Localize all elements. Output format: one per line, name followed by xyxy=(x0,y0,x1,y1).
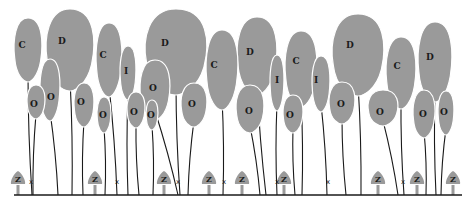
tree-crown-o: O xyxy=(413,90,435,138)
tree-crown-i: I xyxy=(270,55,284,111)
crown-class-label: I xyxy=(124,66,128,76)
crown-class-label: D xyxy=(161,38,169,48)
tree-stem xyxy=(33,114,36,195)
crown-class-label: O xyxy=(147,110,155,120)
crown-shape xyxy=(96,23,122,97)
seedling-z: Z xyxy=(11,171,25,195)
seedling-label: Z xyxy=(92,174,98,184)
tree-stem xyxy=(188,120,194,195)
seedling-label: Z xyxy=(206,174,212,184)
seedling-trunk xyxy=(94,185,97,195)
tree-crown-o: O xyxy=(127,92,145,128)
tree-crown-o: O xyxy=(181,83,207,127)
canopy-svg: DDDDDCCCCOCOOOOOOIOIIOOOOOO ZZZZZZZZZ xx… xyxy=(0,0,463,205)
crown-class-label: O xyxy=(130,107,138,117)
tree-crown-i: I xyxy=(312,56,330,112)
crown-class-label: C xyxy=(18,40,25,50)
crown-class-label: C xyxy=(210,60,217,70)
crown-shape xyxy=(206,30,238,110)
tree-stem xyxy=(250,126,260,195)
crown-class-label: D xyxy=(58,36,66,46)
seedling-trunk xyxy=(241,185,244,195)
tree-stem xyxy=(82,120,84,195)
crowns-layer: DDDDDCCCCOCOOOOOOIOIIOOOOOO xyxy=(14,9,454,138)
crown-class-label: O xyxy=(149,83,157,93)
seedling-label: Z xyxy=(15,174,21,184)
tree-stem xyxy=(136,123,139,195)
crown-class-label: C xyxy=(292,56,299,66)
suppressed-marker: x xyxy=(176,178,180,186)
tree-crown-o: O xyxy=(74,83,94,127)
seedling-label: Z xyxy=(375,174,381,184)
tree-crown-o: O xyxy=(368,90,398,126)
tree-crown-c: C xyxy=(206,30,238,110)
crown-class-label: O xyxy=(188,99,196,109)
tree-crown-o: O xyxy=(283,95,303,133)
crown-class-label: O xyxy=(376,107,384,117)
crown-class-label: O xyxy=(440,107,448,117)
seedling-label: Z xyxy=(414,174,420,184)
tree-stem xyxy=(152,126,154,196)
tree-crown-o: O xyxy=(236,85,264,133)
seedling-trunk xyxy=(283,185,286,195)
markers-layer: xxxxxxx xyxy=(29,178,405,186)
seedling-label: Z xyxy=(239,174,245,184)
seedling-trunk xyxy=(17,185,20,195)
crown-class-label: O xyxy=(77,97,85,107)
seedling-trunk xyxy=(416,185,419,195)
seedling-z: Z xyxy=(235,171,249,195)
seedling-label: Z xyxy=(281,174,287,184)
crown-class-label: O xyxy=(419,109,427,119)
crown-class-label: I xyxy=(314,75,318,85)
crown-class-label: I xyxy=(275,75,279,85)
tree-stem xyxy=(50,112,58,195)
seedling-label: Z xyxy=(450,174,456,184)
tree-stem xyxy=(383,121,398,195)
seedling-z: Z xyxy=(88,171,102,195)
seedling-trunk xyxy=(377,185,380,195)
tree-crown-o: O xyxy=(329,82,355,124)
seedling-z: Z xyxy=(410,171,424,195)
tree-crown-o: O xyxy=(438,91,454,135)
seedling-z: Z xyxy=(202,171,216,195)
crown-class-label: C xyxy=(99,50,106,60)
crown-shape xyxy=(14,18,42,82)
suppressed-marker: x xyxy=(222,178,226,186)
suppressed-marker: x xyxy=(275,178,279,186)
seedling-trunk xyxy=(452,185,455,195)
tree-stem xyxy=(358,84,361,195)
seedling-z: Z xyxy=(446,171,460,195)
crown-class-label: D xyxy=(426,52,434,62)
seedling-trunk xyxy=(208,185,211,195)
crown-class-label: O xyxy=(47,92,55,102)
crown-class-label: C xyxy=(393,61,400,71)
seedling-z: Z xyxy=(371,171,385,195)
seedling-label: Z xyxy=(161,174,167,184)
tree-crown-c: C xyxy=(14,18,42,82)
tree-crown-o: O xyxy=(27,85,45,119)
suppressed-marker: x xyxy=(401,178,405,186)
tree-stem xyxy=(104,128,106,195)
tree-crown-o: O xyxy=(146,100,158,130)
tree-stem xyxy=(424,131,426,195)
crown-class-label: O xyxy=(337,99,345,109)
crown-class-label: O xyxy=(286,110,294,120)
tree-stem xyxy=(342,118,346,195)
crown-class-label: O xyxy=(30,99,38,109)
suppressed-marker: x xyxy=(115,178,119,186)
canopy-diagram: DDDDDCCCCOCOOOOOOIOIIOOOOOO ZZZZZZZZZ xx… xyxy=(0,0,463,205)
seedling-trunk xyxy=(163,185,166,195)
crown-class-label: D xyxy=(246,47,254,57)
tree-stem xyxy=(441,128,446,195)
crown-class-label: O xyxy=(245,106,253,116)
crown-class-label: D xyxy=(346,40,354,50)
seedling-z: Z xyxy=(157,171,171,195)
seedlings-layer: ZZZZZZZZZ xyxy=(11,171,460,195)
tree-stem xyxy=(293,127,295,195)
suppressed-marker: x xyxy=(326,178,330,186)
tree-crown-o: O xyxy=(97,97,111,133)
crown-class-label: O xyxy=(99,110,107,120)
tree-stem xyxy=(70,79,72,195)
suppressed-marker: x xyxy=(29,178,33,186)
tree-crown-c: C xyxy=(96,23,122,97)
